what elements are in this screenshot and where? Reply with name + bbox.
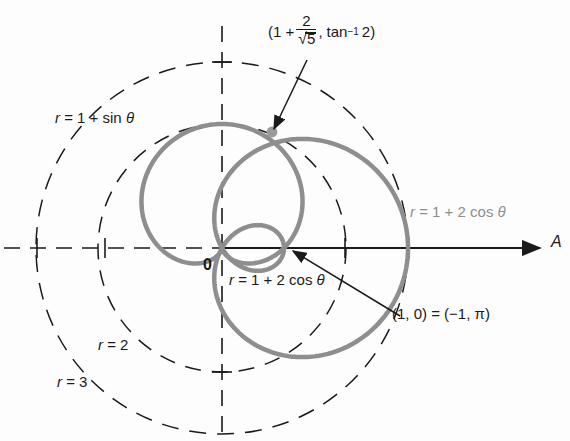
theta-symbol: θ bbox=[317, 271, 325, 288]
label-equation: = 1 + 2 cos bbox=[419, 203, 493, 220]
label-point-1-0: (1, 0) = (−1, π) bbox=[392, 306, 490, 323]
radical-overbar bbox=[305, 32, 316, 33]
square-root-icon: √5 bbox=[297, 30, 315, 48]
label-equation: = 1 + 2 cos bbox=[238, 271, 312, 288]
annotation-exponent: −1 bbox=[347, 26, 358, 37]
annotation-open-paren: (1 + bbox=[268, 24, 294, 41]
label-equation: = 1 + sin bbox=[64, 109, 122, 126]
polar-curves-figure: (1 + 2 √5 , tan−1 2 ) r = 1 + sin θ r = … bbox=[0, 0, 570, 441]
label-origin: 0 bbox=[203, 256, 212, 274]
fraction-two-over-sqrt-five: 2 √5 bbox=[296, 13, 316, 49]
intersection-point-marker bbox=[267, 127, 278, 138]
theta-symbol: θ bbox=[126, 109, 134, 126]
label-axis-a: A bbox=[551, 233, 562, 251]
annotation-intersection-coords: (1 + 2 √5 , tan−1 2 ) bbox=[268, 14, 375, 50]
label-r-symbol: r bbox=[57, 373, 62, 390]
label-circle-r3: r = 3 bbox=[57, 374, 87, 391]
label-r-symbol: r bbox=[55, 109, 60, 126]
label-r-symbol: r bbox=[410, 203, 415, 220]
fraction-numerator: 2 bbox=[299, 13, 313, 29]
label-r-symbol: r bbox=[98, 336, 103, 353]
annotation-comma: , bbox=[318, 24, 322, 41]
label-r-symbol: r bbox=[229, 271, 234, 288]
annotation-argument: 2 bbox=[362, 24, 370, 41]
label-equation: = 3 bbox=[66, 373, 87, 390]
annotation-close-paren: ) bbox=[370, 24, 375, 41]
fraction-denominator: √5 bbox=[296, 30, 316, 48]
label-curve-cardioid: r = 1 + sin θ bbox=[55, 110, 134, 127]
label-circle-r2: r = 2 bbox=[98, 337, 128, 354]
theta-symbol: θ bbox=[498, 203, 506, 220]
label-curve-limacon-inner: r = 1 + 2 cos θ bbox=[229, 272, 325, 289]
annotation-tan: tan bbox=[327, 24, 348, 41]
label-equation: = 2 bbox=[107, 336, 128, 353]
label-curve-limacon-right: r = 1 + 2 cos θ bbox=[410, 204, 506, 221]
